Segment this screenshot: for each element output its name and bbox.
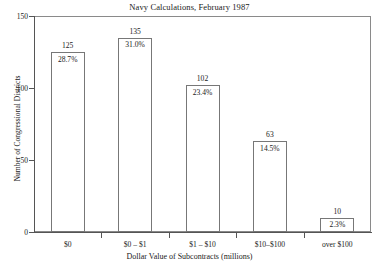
x-tick-mark <box>101 233 102 238</box>
x-axis-line <box>34 232 372 233</box>
bar-value-label: 10 <box>334 207 342 216</box>
bar-percent-label: 28.7% <box>58 55 78 64</box>
y-tick-mark <box>29 232 35 233</box>
y-tick-label: 100 <box>17 84 28 93</box>
bar-percent-label: 14.5% <box>260 144 280 153</box>
y-axis-title: Number of Congressional Districts <box>13 49 22 209</box>
y-axis-line <box>34 16 35 233</box>
x-tick-mark <box>169 233 170 238</box>
x-tick-mark <box>304 233 305 238</box>
bar-value-label: 125 <box>62 41 73 50</box>
bar-chart: Navy Calculations, February 1987 Number … <box>0 0 379 278</box>
bar-percent-label: 23.4% <box>193 88 213 97</box>
bar-value-label: 102 <box>197 74 208 83</box>
x-tick-label: over $100 <box>322 240 353 249</box>
y-tick-mark <box>29 88 35 89</box>
x-tick-mark <box>236 233 237 238</box>
bar-value-label: 135 <box>129 27 140 36</box>
y-tick-label: 50 <box>21 156 29 165</box>
y-tick-mark <box>29 16 35 17</box>
y-tick-label: 0 <box>24 228 28 237</box>
x-tick-label: $1 – $10 <box>189 240 216 249</box>
x-tick-label: $10–$100 <box>255 240 285 249</box>
bar <box>186 85 220 232</box>
x-tick-label: $0 <box>64 240 72 249</box>
bar <box>118 38 152 232</box>
y-tick-label: 150 <box>17 12 28 21</box>
x-tick-label: $0 – $1 <box>124 240 147 249</box>
bar <box>253 141 287 232</box>
bar-value-label: 63 <box>266 130 274 139</box>
x-axis-title: Dollar Value of Subcontracts (millions) <box>0 252 379 261</box>
bar-percent-label: 31.0% <box>125 40 145 49</box>
bar <box>51 52 85 232</box>
y-tick-mark <box>29 160 35 161</box>
bar-percent-label: 2.3% <box>329 220 345 229</box>
chart-title: Navy Calculations, February 1987 <box>0 2 379 12</box>
